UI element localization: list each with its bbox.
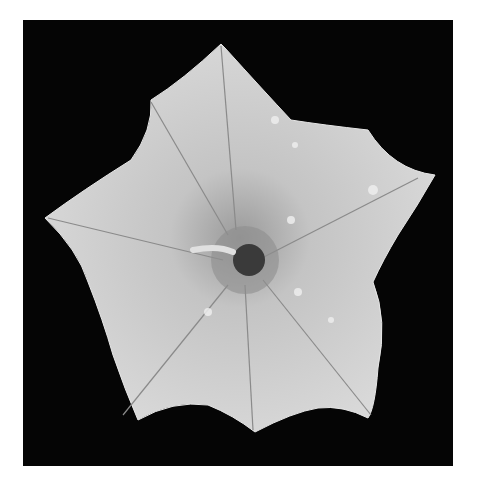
flower-image xyxy=(23,20,453,466)
stamens xyxy=(233,244,265,276)
photo-frame xyxy=(23,20,453,466)
